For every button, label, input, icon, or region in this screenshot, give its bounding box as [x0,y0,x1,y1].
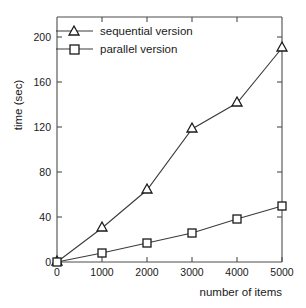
square-marker-icon [278,202,286,210]
square-marker-icon [143,239,151,247]
line-chart: 0 40 80 120 160 200 0 1000 2000 3000 400… [0,0,306,308]
chart-legend: sequential version parallel version [56,25,193,55]
legend-label-sequential: sequential version [100,25,193,37]
y-tick-label-120: 120 [33,121,51,133]
x-tick-label-5000: 5000 [270,266,294,278]
square-marker-icon [70,45,79,54]
x-tick-label-2000: 2000 [135,266,159,278]
x-tick-label-4000: 4000 [225,266,249,278]
series-parallel-version [53,202,286,266]
square-marker-icon [188,229,196,237]
chart-figure: 0 40 80 120 160 200 0 1000 2000 3000 400… [0,0,306,308]
x-tick-label-1000: 1000 [90,266,114,278]
legend-entry-sequential-version[interactable]: sequential version [56,25,193,37]
y-tick-labels: 0 40 80 120 160 200 [33,31,51,268]
x-tick-label-0: 0 [54,266,60,278]
square-marker-icon [233,215,241,223]
x-tick-label-3000: 3000 [180,266,204,278]
x-tick-labels: 0 1000 2000 3000 4000 5000 [54,266,294,278]
y-axis-ticks-right [277,37,282,217]
legend-entry-parallel-version[interactable]: parallel version [56,43,177,55]
y-tick-label-40: 40 [39,211,51,223]
square-marker-icon [98,249,106,257]
y-axis-title: time (sec) [12,80,24,131]
triangle-marker-icon [277,42,287,51]
x-axis-title: number of items [200,286,283,298]
y-tick-label-200: 200 [33,31,51,43]
legend-label-parallel: parallel version [100,43,177,55]
y-tick-label-0: 0 [45,256,51,268]
y-axis-ticks-left [57,37,62,262]
x-axis-ticks-top [102,17,237,22]
y-tick-label-80: 80 [39,166,51,178]
series-parallel-line [57,206,282,262]
square-marker-icon [53,258,61,266]
series-sequential-version [52,42,287,265]
series-sequential-line [57,48,282,262]
triangle-marker-icon [97,222,107,231]
y-tick-label-160: 160 [33,76,51,88]
x-axis-ticks-bottom [57,257,282,262]
